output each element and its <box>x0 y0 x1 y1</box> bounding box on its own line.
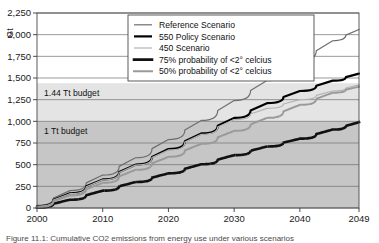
y-axis-label: Gt <box>5 28 15 38</box>
annotation-1-44-tt-budget: 1.44 Tt budget <box>44 88 100 98</box>
figure-caption-clip: Figure 11.1: Cumulative CO2 emissions fr… <box>6 234 374 243</box>
y-tick-label: 1,500 <box>7 72 31 83</box>
x-tick-label: 2049 <box>348 213 369 224</box>
figure-container: 02505007501,0001,2501,5001,7502,0002,250… <box>0 0 379 243</box>
legend-label: 75% probability of <2° celcius <box>159 55 272 65</box>
x-tick-label: 2040 <box>289 213 310 224</box>
x-tick-label: 2010 <box>92 213 113 224</box>
y-tick-label: 0 <box>26 202 31 213</box>
legend-label: 550 Policy Scenario <box>159 32 235 42</box>
emissions-line-chart: 02505007501,0001,2501,5001,7502,0002,250… <box>0 0 379 243</box>
y-tick-label: 1,250 <box>7 94 31 105</box>
y-tick-label: 1,000 <box>7 116 31 127</box>
y-tick-label: 250 <box>15 181 31 192</box>
legend-label: Reference Scenario <box>159 20 235 30</box>
legend-label: 450 Scenario <box>159 43 210 53</box>
x-tick-label: 2030 <box>224 213 245 224</box>
y-tick-label: 750 <box>15 137 31 148</box>
y-tick-label: 500 <box>15 159 31 170</box>
x-tick-label: 2020 <box>158 213 179 224</box>
x-tick-label: 2000 <box>26 213 47 224</box>
y-tick-label: 1,750 <box>7 51 31 62</box>
y-tick-label: 2,250 <box>7 7 31 18</box>
legend-label: 50% probability of <2° celcius <box>159 66 272 76</box>
figure-caption: Figure 11.1: Cumulative CO2 emissions fr… <box>6 234 374 243</box>
annotation-1-tt-budget: 1 Tt budget <box>44 126 88 136</box>
chart-legend: Reference Scenario550 Policy Scenario450… <box>128 15 314 81</box>
